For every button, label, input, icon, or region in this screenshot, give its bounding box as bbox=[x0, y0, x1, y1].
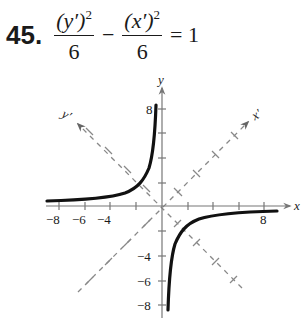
x-tick-8: 8 bbox=[260, 212, 267, 227]
x-tick-neg8: −8 bbox=[46, 212, 60, 227]
x-prime-label: x′ bbox=[248, 106, 264, 124]
x-prime-axis bbox=[78, 122, 248, 292]
y-tick-neg8: −8 bbox=[137, 298, 151, 313]
x-axis-label: x bbox=[293, 198, 300, 213]
y-tick-8: 8 bbox=[146, 102, 153, 117]
y-tick-neg4: −4 bbox=[137, 249, 151, 264]
hyperbola-graph: x y x′ y′ −8 −6 −4 8 8 −4 −6 −8 bbox=[0, 0, 305, 326]
y-axis-label: y bbox=[156, 72, 164, 87]
y-prime-label: y′ bbox=[58, 105, 75, 123]
x-tick-neg4: −4 bbox=[97, 212, 111, 227]
rotated-axes bbox=[78, 122, 248, 292]
x-tick-neg6: −6 bbox=[72, 212, 86, 227]
y-tick-neg6: −6 bbox=[137, 274, 151, 289]
